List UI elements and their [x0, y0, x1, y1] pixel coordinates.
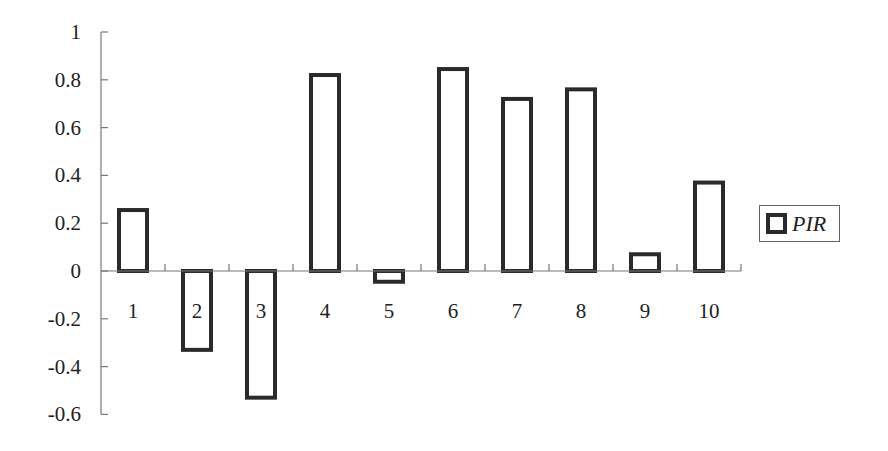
x-tick-label: 2: [192, 299, 203, 323]
y-tick-label: -0.6: [48, 402, 81, 426]
y-axis: 10.80.60.40.20-0.2-0.4-0.6: [48, 20, 108, 426]
y-tick-label: 0.6: [55, 116, 81, 140]
x-tick-label: 3: [256, 299, 267, 323]
bar: [247, 271, 275, 398]
legend: PIR: [759, 205, 840, 242]
x-tick-labels: 12345678910: [128, 299, 720, 323]
x-tick-label: 9: [640, 299, 651, 323]
y-tick-label: -0.4: [48, 355, 82, 379]
x-tick-label: 1: [128, 299, 139, 323]
bar: [311, 75, 339, 271]
x-tick-label: 5: [384, 299, 395, 323]
bar: [695, 183, 723, 271]
y-tick-label: 0.8: [55, 68, 81, 92]
bar: [439, 69, 467, 271]
y-tick-label: -0.2: [48, 307, 81, 331]
legend-label: PIR: [792, 211, 826, 237]
y-tick-label: 0.4: [55, 163, 82, 187]
y-tick-label: 0.2: [55, 211, 81, 235]
x-tick-label: 4: [320, 299, 331, 323]
x-tick-label: 6: [448, 299, 459, 323]
bar: [119, 210, 147, 271]
x-tick-label: 10: [699, 299, 720, 323]
legend-swatch-icon: [766, 213, 787, 234]
x-tick-label: 8: [576, 299, 587, 323]
bar: [567, 89, 595, 271]
bar: [631, 254, 659, 271]
bar: [503, 99, 531, 271]
bars: [119, 69, 723, 398]
x-tick-label: 7: [512, 299, 523, 323]
bar: [375, 271, 403, 282]
y-tick-label: 0: [71, 259, 82, 283]
y-tick-label: 1: [71, 20, 82, 44]
bar-chart: 10.80.60.40.20-0.2-0.4-0.6 12345678910: [0, 0, 888, 451]
